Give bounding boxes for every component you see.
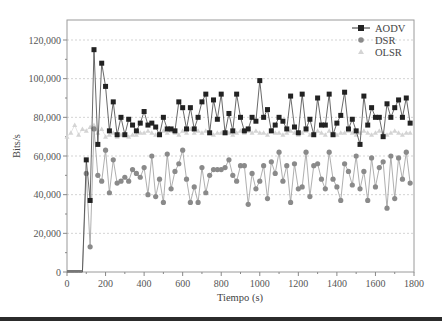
data-point [234, 179, 239, 184]
data-point [157, 177, 162, 182]
data-point [126, 117, 131, 122]
data-point [315, 96, 320, 101]
data-point [192, 126, 197, 131]
data-point [188, 105, 193, 110]
data-point [253, 128, 258, 133]
data-point [149, 153, 154, 158]
data-point [307, 194, 312, 199]
data-point [408, 121, 413, 126]
data-point [207, 130, 212, 135]
data-point [315, 161, 320, 166]
data-point [338, 198, 343, 203]
data-point [361, 169, 366, 174]
series-line [67, 129, 410, 272]
data-point [172, 169, 177, 174]
data-point [404, 96, 409, 101]
x-tick-label: 400 [137, 278, 152, 289]
y-axis: 020,00040,00060,00080,000100,000120,000 [29, 35, 68, 278]
data-point [203, 92, 208, 97]
data-point [230, 128, 235, 133]
data-point [373, 184, 378, 189]
data-point [296, 130, 301, 135]
circle-marker-icon [358, 37, 364, 43]
data-point [311, 132, 316, 137]
data-point [261, 115, 266, 120]
data-point [253, 186, 258, 191]
square-marker-icon [358, 25, 364, 31]
data-point [246, 126, 251, 131]
data-point [269, 128, 274, 133]
data-point [304, 126, 309, 131]
data-point [172, 128, 177, 133]
data-point [327, 92, 332, 97]
data-point [142, 109, 147, 114]
data-point [280, 119, 285, 124]
data-point [253, 119, 258, 124]
data-point [396, 97, 401, 102]
data-point [184, 126, 189, 131]
data-point [115, 132, 120, 137]
data-point [180, 105, 185, 110]
data-point [118, 179, 123, 184]
data-point [249, 171, 254, 176]
x-tick-label: 1400 [327, 278, 347, 289]
data-point [381, 159, 386, 164]
data-point [292, 161, 297, 166]
data-point [323, 123, 328, 128]
data-point [199, 165, 204, 170]
data-point [342, 161, 347, 166]
data-point [157, 132, 162, 137]
data-point [195, 200, 200, 205]
data-point [365, 123, 370, 128]
data-point [369, 155, 374, 160]
data-point [80, 126, 85, 131]
data-point [88, 198, 93, 203]
data-point [354, 153, 359, 158]
data-point [300, 92, 305, 97]
y-tick-label: 60,000 [34, 151, 62, 162]
data-point [99, 179, 104, 184]
data-point [276, 150, 281, 155]
data-point [392, 196, 397, 201]
data-point [176, 161, 181, 166]
data-point [215, 117, 220, 122]
data-point [342, 90, 347, 95]
data-point [288, 200, 293, 205]
data-point [99, 126, 104, 131]
data-point [161, 115, 166, 120]
data-point [138, 121, 143, 126]
data-point [257, 179, 262, 184]
data-point [261, 163, 266, 168]
data-point [284, 163, 289, 168]
data-point [334, 184, 339, 189]
page-divider [0, 317, 442, 321]
data-point [211, 97, 216, 102]
data-point [338, 113, 343, 118]
y-tick-label: 80,000 [34, 112, 62, 123]
x-tick-label: 1000 [250, 278, 270, 289]
data-point [72, 123, 77, 128]
y-tick-label: 0 [56, 267, 61, 278]
data-point [265, 107, 270, 112]
data-point [273, 171, 278, 176]
data-point [307, 117, 312, 122]
data-point [207, 173, 212, 178]
data-point [188, 200, 193, 205]
data-point [196, 115, 201, 120]
x-tick-label: 1800 [404, 278, 424, 289]
data-point [238, 115, 243, 120]
data-point [180, 148, 185, 153]
series-aodv [67, 47, 413, 272]
data-point [330, 177, 335, 182]
x-tick-label: 600 [175, 278, 190, 289]
data-point [346, 126, 351, 131]
data-point [145, 128, 150, 133]
data-point [134, 171, 139, 176]
data-point [130, 167, 135, 172]
data-point [138, 175, 143, 180]
series-line [67, 50, 410, 272]
data-point [95, 173, 100, 178]
data-point [350, 182, 355, 187]
data-point [361, 128, 366, 133]
data-point [265, 196, 270, 201]
